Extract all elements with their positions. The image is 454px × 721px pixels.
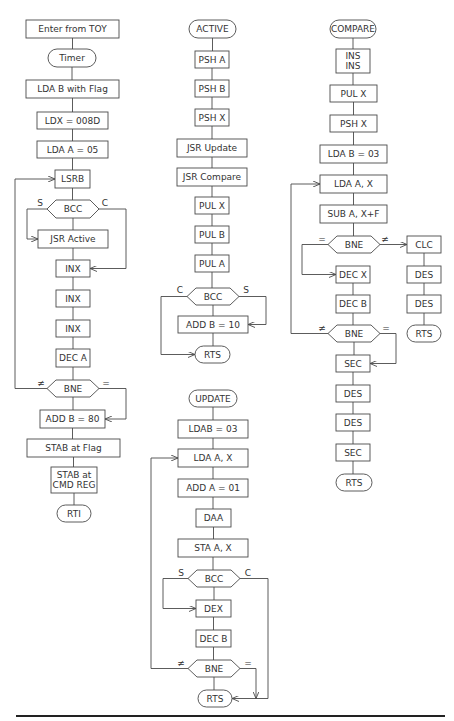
compare-node-rect: SUB A, X+F [320, 205, 387, 223]
compare-node-decision: BNE [328, 325, 380, 342]
update-node-terminal: UPDATE [189, 390, 237, 407]
node-label: BNE [205, 664, 224, 674]
node-label: STA A, X [194, 543, 232, 553]
update-node-rect: DEX [196, 600, 231, 617]
node-label: DES [415, 270, 434, 280]
compare-node-rect: DES [336, 414, 370, 431]
update-node-rect: DEC B [196, 630, 231, 647]
timer-node-rect: STAB atCMD REG [51, 467, 97, 493]
compare-node-terminal: RTS [407, 325, 441, 342]
compare-node-rect: SEC [336, 355, 370, 372]
node-label: DEC B [200, 634, 228, 644]
node-label: ADD A = 01 [186, 483, 240, 493]
timer-node-rect: LDA A = 05 [37, 141, 108, 158]
node-label: DES [415, 299, 434, 309]
node-label: SUB A, X+F [327, 209, 379, 219]
node-label: LDAB = 03 [189, 424, 238, 434]
node-label: RTS [346, 478, 363, 488]
edge-label: = [382, 323, 390, 333]
edge-label: C [177, 285, 183, 295]
compare-node-rect: CLC [407, 236, 441, 253]
update-node-decision: BNE [188, 660, 240, 677]
node-label: RTS [207, 694, 224, 704]
node-label: STAB at [57, 470, 92, 480]
compare-node-terminal: RTS [336, 474, 372, 491]
edge-label: ≠ [381, 234, 389, 244]
node-label: LDA A = 05 [47, 145, 99, 155]
node-label: PUL A [199, 259, 226, 269]
branch-equal [240, 669, 256, 699]
timer-node-terminal: Timer [48, 49, 96, 67]
node-label: LDA B with Flag [37, 84, 108, 94]
timer-node-rect: Enter from TOY [26, 20, 119, 38]
compare-node-rect: SEC [336, 444, 370, 461]
node-label: PSH B [199, 84, 226, 94]
node-label: INX [65, 294, 81, 304]
compare-node-rect: PSH X [330, 115, 377, 132]
active-node-rect: JSR Compare [177, 168, 247, 186]
active-node-rect: PUL X [195, 197, 229, 214]
compare-node-rect: INSINS [336, 49, 370, 73]
node-label: BNE [64, 384, 83, 394]
node-label: PUL X [199, 201, 225, 211]
node-label: RTS [416, 329, 433, 339]
active-node-terminal: RTS [195, 346, 230, 363]
node-label-line2: INS [345, 61, 360, 71]
compare-node-rect: LDA B = 03 [320, 145, 387, 163]
node-label: COMPARE [331, 24, 375, 34]
compare-node-decision: BNE [328, 236, 380, 253]
node-label: BNE [345, 240, 364, 250]
node-label: LDA A, X [194, 453, 233, 463]
node-label: DES [344, 418, 363, 428]
timer-node-rect: LDA B with Flag [26, 80, 119, 98]
node-label: ACTIVE [196, 24, 229, 34]
active-node-terminal: ACTIVE [189, 20, 236, 38]
active-node-rect: PUL B [195, 226, 229, 243]
node-label: DEC B [339, 299, 367, 309]
node-label: Enter from TOY [38, 24, 107, 34]
node-label: ADD B = 80 [46, 414, 100, 424]
timer-node-rect: STAB at Flag [27, 439, 120, 457]
node-label: JSR Compare [182, 172, 242, 182]
compare-node-terminal: COMPARE [330, 20, 376, 38]
edge-label: C [102, 198, 108, 208]
update-node-rect: LDA A, X [178, 449, 248, 467]
timer-node-rect: INX [56, 320, 90, 337]
edge-label: ≠ [318, 323, 326, 333]
edge-label: ≠ [37, 378, 45, 388]
node-label: DEX [204, 604, 223, 614]
node-label: STAB at Flag [45, 443, 102, 453]
edge-label: = [244, 658, 252, 668]
node-label: JSR Update [186, 143, 238, 153]
active-node-rect: PSH B [195, 80, 229, 97]
node-label: UPDATE [195, 394, 231, 404]
node-label: ADD B = 10 [186, 320, 240, 330]
node-label-line2: CMD REG [53, 480, 96, 490]
node-label: Timer [58, 53, 85, 63]
update-node-rect: STA A, X [178, 539, 248, 557]
node-label: SEC [344, 359, 362, 369]
timer-node-rect: LSRB [55, 170, 90, 188]
compare-node-rect: DES [407, 266, 441, 283]
edge-label: ≠ [177, 658, 185, 668]
timer-node-rect: LDX = 008D [37, 112, 108, 129]
node-label: SEC [344, 448, 362, 458]
node-label: INX [65, 264, 81, 274]
active-node-rect: PSH A [195, 51, 229, 68]
compare-node-rect: LDA A, X [320, 175, 387, 193]
compare-node-rect: DEC B [336, 295, 370, 313]
node-label: LDX = 008D [45, 116, 101, 126]
node-label: PUL X [340, 89, 366, 99]
timer-node-rect: ADD B = 80 [40, 410, 105, 428]
node-label: RTS [204, 350, 221, 360]
edge-label: S [37, 198, 43, 208]
node-label: DEC X [339, 270, 367, 280]
node-label: LSRB [61, 174, 84, 184]
node-label: LDA B = 03 [328, 149, 380, 159]
active-node-decision: BCC [187, 288, 239, 305]
compare-node-rect: DES [336, 385, 370, 402]
node-label: DEC A [59, 353, 88, 363]
timer-node-decision: BNE [47, 380, 99, 397]
timer-node-rect: DEC A [56, 349, 90, 367]
compare-node-rect: PUL X [330, 85, 377, 102]
